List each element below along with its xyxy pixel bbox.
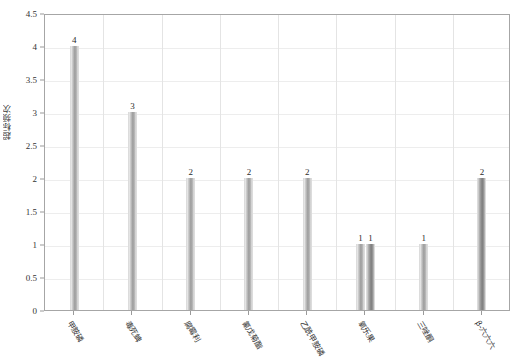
x-tick-mark [190,311,191,315]
x-tick-label: 乙酰甲胺磷 [299,318,329,358]
x-tick-mark [423,311,424,315]
x-tick-mark [73,311,74,315]
x-tick-label: β-六六六 [473,318,499,351]
x-tick-mark [131,311,132,315]
x-axis: 甲胺磷毒死蜱腐霉利氰戊菊酯乙酰甲胺磷氧乐果三唑酮β-六六六 [0,0,524,359]
x-tick-label: 甲胺磷 [66,318,88,344]
bar-chart: 超标频次 00.511.522.533.544.5 432221112 甲胺磷毒… [0,0,524,359]
x-tick-mark [364,311,365,315]
x-tick-mark [248,311,249,315]
x-tick-label: 毒死蜱 [124,318,146,344]
x-tick-label: 氰戊菊酯 [240,318,266,351]
x-tick-mark [481,311,482,315]
x-tick-label: 腐霉利 [182,318,204,344]
x-tick-mark [306,311,307,315]
x-tick-label: 氧乐果 [357,318,379,344]
x-tick-label: 三唑酮 [415,318,437,344]
